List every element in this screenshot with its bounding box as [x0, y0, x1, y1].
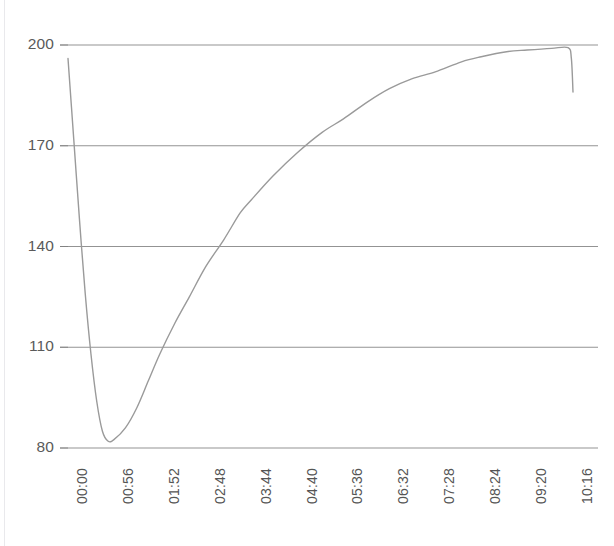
- x-tick-label-00-56: 00:56: [120, 468, 136, 504]
- x-tick-label-05-36: 05:36: [349, 468, 365, 504]
- x-tick-label-09-20: 09:20: [533, 468, 549, 504]
- x-tick-label-group: 00:0000:5601:5202:4803:4404:4005:3606:32…: [0, 0, 614, 546]
- x-tick-label-10-16: 10:16: [579, 468, 595, 504]
- x-tick-label-04-40: 04:40: [304, 468, 320, 504]
- x-tick-label-01-52: 01:52: [166, 468, 182, 504]
- x-tick-label-00-00: 00:00: [74, 468, 90, 504]
- x-tick-label-03-44: 03:44: [258, 468, 274, 504]
- x-tick-label-02-48: 02:48: [212, 468, 228, 504]
- x-tick-label-08-24: 08:24: [487, 468, 503, 504]
- line-chart: 80110140170200 00:0000:5601:5202:4803:44…: [0, 0, 614, 546]
- x-tick-label-06-32: 06:32: [395, 468, 411, 504]
- x-tick-label-07-28: 07:28: [441, 468, 457, 504]
